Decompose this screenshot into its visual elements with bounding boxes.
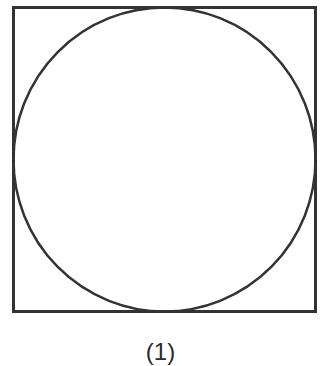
inscribed-circle xyxy=(14,8,316,312)
figure-caption: (1) xyxy=(0,338,321,366)
circle-in-square-diagram xyxy=(0,0,321,366)
diagram-figure: (1) xyxy=(0,0,321,366)
outer-square xyxy=(14,8,316,312)
